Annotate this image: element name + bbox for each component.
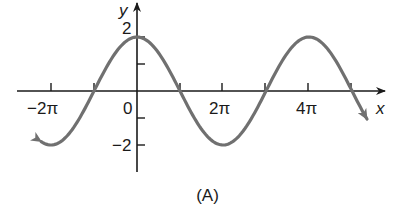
x-tick-label-neg2pi: −2π: [27, 99, 58, 118]
x-tick-label-4pi: 4π: [296, 99, 317, 118]
x-tick-label-0: 0: [123, 99, 132, 118]
y-tick-label-neg2: −2: [112, 136, 131, 155]
y-tick-label-2: 2: [122, 19, 131, 38]
y-axis-label: y: [118, 1, 129, 20]
x-tick-label-2pi: 2π: [209, 99, 230, 118]
x-axis-label: x: [375, 99, 385, 118]
figure-caption: (A): [0, 186, 415, 206]
